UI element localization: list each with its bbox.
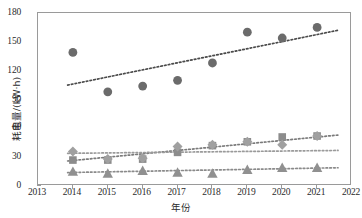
triangle-series-point [137, 165, 147, 174]
x-tick-label: 2022 [342, 187, 360, 197]
x-tick-mark [211, 185, 212, 189]
diamond-series-point [68, 146, 78, 156]
circle-series-point [138, 82, 147, 91]
diamond-series-trendline [68, 150, 338, 153]
triangle-series-point [277, 163, 287, 172]
square-series-point [69, 156, 77, 164]
triangle-series-point [103, 168, 113, 177]
x-tick-mark [281, 185, 282, 189]
x-tick-label: 2013 [28, 187, 46, 197]
plot-area [37, 12, 351, 185]
circle-series-point [313, 23, 322, 32]
x-tick-mark [177, 185, 178, 189]
x-tick-mark [107, 185, 108, 189]
x-tick-mark [246, 185, 247, 189]
circle-series-point [173, 76, 182, 85]
diamond-series-point [277, 140, 287, 150]
y-tick-label: 30 [12, 151, 21, 161]
x-tick-mark [142, 185, 143, 189]
circle-series-point [243, 28, 252, 37]
triangle-series-point [68, 166, 78, 175]
circle-series-point [278, 34, 287, 43]
x-tick-mark [316, 185, 317, 189]
circle-series-point [208, 59, 217, 68]
y-tick-label: 120 [7, 65, 21, 75]
triangle-series-point [172, 167, 182, 176]
y-tick-label: 60 [12, 122, 21, 132]
circle-series-point [103, 87, 112, 96]
triangle-series-point [312, 163, 322, 172]
x-axis-title: 年份 [0, 200, 362, 214]
y-tick-label: 0 [16, 180, 21, 190]
data-layer [38, 13, 352, 186]
circle-series-point [68, 48, 77, 57]
scatter-chart: 耗电量/(kW·h) 0306090120150180 201320142015… [0, 0, 362, 218]
y-tick-label: 150 [7, 36, 21, 46]
square-series-point [278, 133, 286, 141]
circle-series-trendline [68, 30, 338, 85]
y-tick-label: 180 [7, 7, 21, 17]
y-tick-label: 90 [12, 94, 21, 104]
x-tick-mark [72, 185, 73, 189]
